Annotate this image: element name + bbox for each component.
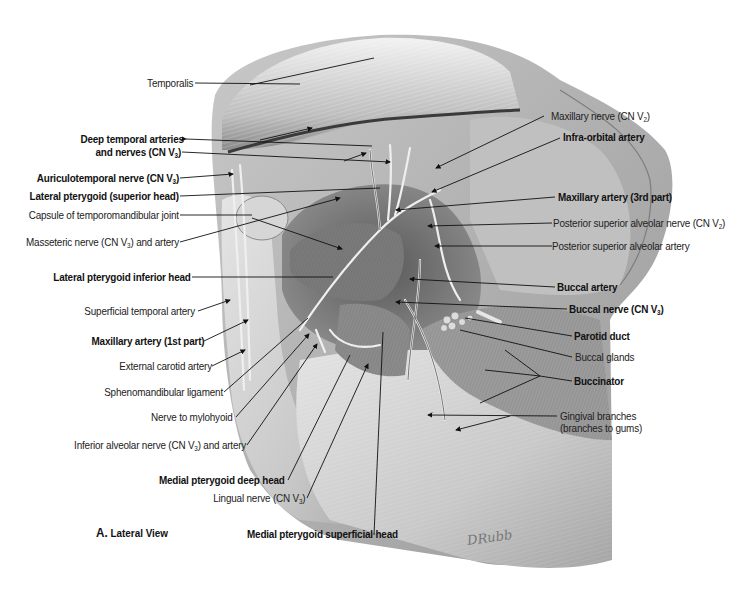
label-sphenomandibular-ligament: Sphenomandibular ligament [104,386,223,399]
label-superficial-temporal-artery: Superficial temporal artery [84,305,195,318]
label-buccal-artery: Buccal artery [557,281,617,294]
anatomy-illustration [0,0,746,599]
label-psa-nerve: Posterior superior alveolar nerve (CN V2… [553,217,725,230]
label-buccal-nerve: Buccal nerve (CN V3) [569,303,664,316]
label-external-carotid-artery: External carotid artery [119,360,212,373]
label-inferior-alveolar-nerve: Inferior alveolar nerve (CN V3) and arte… [74,439,246,452]
label-medial-pterygoid-deep: Medial pterygoid deep head [159,474,285,487]
label-maxillary-nerve: Maxillary nerve (CN V2) [551,110,650,123]
label-tmj-capsule: Capsule of temporomandibular joint [29,209,179,222]
label-temporalis: Temporalis [147,77,193,90]
label-lateral-pterygoid-superior: Lateral pterygoid (superior head) [30,190,179,203]
label-maxillary-artery-3rd: Maxillary artery (3rd part) [558,191,672,204]
label-masseteric-nerve: Masseteric nerve (CN V3) and artery [26,236,179,249]
label-deep-temporal-nerves: and nerves (CN V3) [95,146,181,159]
label-lingual-nerve: Lingual nerve (CN V3) [213,492,305,505]
label-deep-temporal-arteries: Deep temporal arteries [81,133,184,146]
label-lateral-pterygoid-inferior: Lateral pterygoid inferior head [54,271,191,284]
label-gingival-branches-note: (branches to gums) [560,422,642,435]
label-maxillary-artery-1st: Maxillary artery (1st part) [91,335,204,348]
label-infra-orbital-artery: Infra-orbital artery [563,131,645,144]
label-parotid-duct: Parotid duct [574,330,630,343]
label-nerve-to-mylohyoid: Nerve to mylohyoid [151,411,233,424]
label-buccal-glands: Buccal glands [575,351,634,364]
label-medial-pterygoid-superficial: Medial pterygoid superficial head [247,528,398,541]
label-buccinator: Buccinator [574,375,624,388]
figure-caption: A. Lateral View [96,525,168,540]
label-psa-artery: Posterior superior alveolar artery [552,240,689,253]
label-auriculotemporal-nerve: Auriculotemporal nerve (CN V3) [37,172,179,185]
